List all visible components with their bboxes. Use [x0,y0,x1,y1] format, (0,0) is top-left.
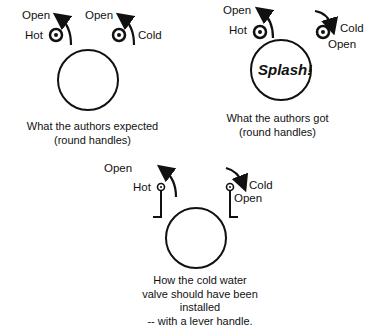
sink-basin-icon [166,208,226,268]
hot-round-handle-icon [50,29,62,41]
cold-open-label: Open [85,9,113,22]
hot-round-handle-icon [254,26,266,38]
cold-round-handle-icon [317,26,329,38]
cold-open-arrow-icon [315,11,332,27]
hot-label: Hot [229,24,247,37]
cold-label: Cold [249,179,273,192]
cold-round-handle-icon [113,29,125,41]
hot-label: Hot [25,29,43,42]
sink-basin-icon [58,50,118,110]
panel-lever: Open Hot Cold Open How the cold water va… [100,150,300,336]
cold-open-label: Open [234,192,262,205]
hot-open-arrow-icon [262,12,273,38]
lever-caption: How the cold water valve should have bee… [100,274,300,328]
expected-caption: What the authors expected (round handles… [0,120,185,147]
hot-open-label: Open [104,162,132,175]
cold-open-label: Open [328,38,356,51]
hot-open-label: Open [22,9,50,22]
cold-label: Cold [340,22,364,35]
cold-label: Cold [138,29,162,42]
panel-got: Open Hot Cold Open Splash! What the auth… [185,0,370,150]
hot-open-arrow-icon [164,170,176,197]
splash-text: Splash! [258,61,312,78]
hot-lever-handle-icon [153,184,165,218]
hot-label: Hot [133,181,151,194]
hot-open-label: Open [223,4,251,17]
cold-open-arrow-icon [226,168,243,184]
got-caption: What the authors got (round handles) [185,112,370,139]
panel-expected: Open Hot Open Cold What the authors expe… [0,0,185,150]
